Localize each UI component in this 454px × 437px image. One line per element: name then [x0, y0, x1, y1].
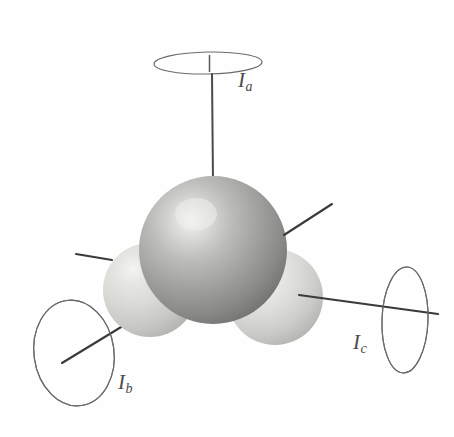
- bond-line-upper-right: [284, 204, 332, 235]
- inertia-axes-illustration: [0, 0, 454, 437]
- ellipse-b-outline-overlay: [27, 295, 121, 411]
- axis-label-Ia-symbol: I: [238, 68, 245, 92]
- central-atom-highlight: [175, 198, 217, 230]
- axis-label-Ic-subscript: c: [361, 341, 367, 356]
- ellipse-c-outline-overlay: [380, 266, 430, 374]
- axis-label-Ib-symbol: I: [118, 370, 125, 394]
- figure-canvas: Ia Ib Ic: [0, 0, 454, 437]
- rotation-ellipse-b: [27, 295, 121, 411]
- axis-label-Ib: Ib: [118, 372, 133, 396]
- axis-label-Ia: Ia: [238, 70, 253, 94]
- ellipse-b-outline: [27, 295, 121, 411]
- axis-label-Ic-symbol: I: [353, 330, 360, 354]
- axis-label-Ic: Ic: [353, 332, 367, 356]
- central-atom-sphere: [139, 176, 287, 324]
- axis-label-Ia-subscript: a: [246, 79, 253, 94]
- axis-label-Ib-subscript: b: [126, 381, 133, 396]
- central-atom: [139, 176, 287, 324]
- axis-line-a: [212, 74, 213, 182]
- bond-line-left: [76, 254, 112, 260]
